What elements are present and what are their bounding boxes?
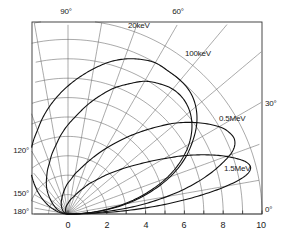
angle-label-4: 120° xyxy=(13,147,29,155)
grid-arc xyxy=(32,98,184,214)
radial-tick-label-1: 2 xyxy=(105,221,110,230)
grid-ray xyxy=(68,23,138,214)
grid-ray xyxy=(68,180,259,214)
angle-label-5: 150° xyxy=(13,190,29,198)
angle-label-1: 60° xyxy=(172,8,184,16)
chart-canvas xyxy=(0,0,290,241)
grid-ray xyxy=(68,52,261,214)
angle-label-0: 90° xyxy=(60,8,72,16)
curve-label-20-keV: 20keV xyxy=(128,22,150,30)
grid-ray xyxy=(34,23,68,214)
grid-arc xyxy=(32,117,165,214)
angle-label-3: 0° xyxy=(265,206,272,214)
angle-label-2: 30° xyxy=(265,100,277,108)
curve-label-0-5-MeV: 0.5MeV xyxy=(219,115,245,123)
angle-label-6: 180° xyxy=(13,208,29,216)
radial-tick-label-0: 0 xyxy=(66,221,71,230)
radial-tick-label-5: 10 xyxy=(256,221,266,230)
radial-tick-label-4: 8 xyxy=(221,221,226,230)
curve-label-1-5-MeV: 1.5MeV xyxy=(224,165,250,173)
polar-scattering-diagram: 0246810 90°60°30°0°120°150°180° 20keV100… xyxy=(0,0,290,241)
energy-curve-3 xyxy=(61,122,235,214)
energy-curve-1 xyxy=(32,59,197,214)
radial-tick-label-2: 4 xyxy=(144,221,149,230)
curve-label-100-keV: 100keV xyxy=(185,50,211,58)
radial-tick-label-3: 6 xyxy=(182,221,187,230)
